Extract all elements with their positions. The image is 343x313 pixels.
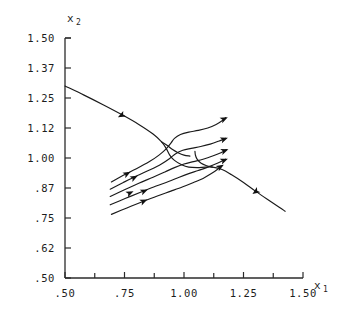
y-tick-labels: 1.501.371.251.121.00.87.75.62.50 xyxy=(27,32,55,284)
x-tick-label: .75 xyxy=(114,287,135,299)
y-axis-title-subscript: 2 xyxy=(76,18,81,27)
flow-arrow xyxy=(220,146,229,154)
y-tick-label: .62 xyxy=(34,242,55,254)
y-tick-label: 1.12 xyxy=(27,122,55,134)
flow-arrow xyxy=(130,173,140,182)
arrow-head-icon xyxy=(220,156,229,165)
y-tick-marks xyxy=(65,38,71,278)
x-axis-title: x 1 xyxy=(314,279,328,294)
arrow-markers-group xyxy=(116,111,260,205)
axes-group xyxy=(65,38,303,278)
y-axis-title-base: x xyxy=(67,12,74,25)
arrow-head-icon xyxy=(140,187,149,196)
y-tick-label: .75 xyxy=(34,212,55,224)
flow-arrow xyxy=(140,187,149,196)
arrow-head-icon xyxy=(139,197,148,206)
x-axis-title-subscript: 1 xyxy=(323,285,328,294)
x-tick-label: .50 xyxy=(55,287,76,299)
x-axis-title-base: x xyxy=(314,279,321,292)
x-tick-label: 1.25 xyxy=(230,287,258,299)
arrow-head-icon xyxy=(130,173,140,182)
x-tick-label: 1.50 xyxy=(289,287,317,299)
y-tick-label: .87 xyxy=(34,182,55,194)
x-tick-marks xyxy=(65,272,303,278)
x-tick-label: 1.00 xyxy=(170,287,198,299)
arrow-head-icon xyxy=(220,146,229,154)
y-axis-title: x 2 xyxy=(67,12,81,27)
y-tick-label: 1.37 xyxy=(27,62,55,74)
y-tick-label: 1.50 xyxy=(27,32,55,44)
x-tick-labels: .50.751.001.251.50 xyxy=(55,287,317,299)
plot-canvas: 1.501.371.251.121.00.87.75.62.50 .50.751… xyxy=(0,0,343,313)
flow-arrow xyxy=(220,156,229,165)
curve-separatrix-incoming xyxy=(65,86,285,211)
curves-group xyxy=(65,86,285,214)
arrow-head-icon xyxy=(220,135,229,143)
flow-arrow xyxy=(220,135,229,143)
y-tick-label: .50 xyxy=(34,272,55,284)
y-tick-label: 1.00 xyxy=(27,152,55,164)
y-tick-label: 1.25 xyxy=(27,92,55,104)
phase-portrait-figure: 1.501.371.251.121.00.87.75.62.50 .50.751… xyxy=(0,0,343,313)
flow-arrow xyxy=(139,197,148,206)
